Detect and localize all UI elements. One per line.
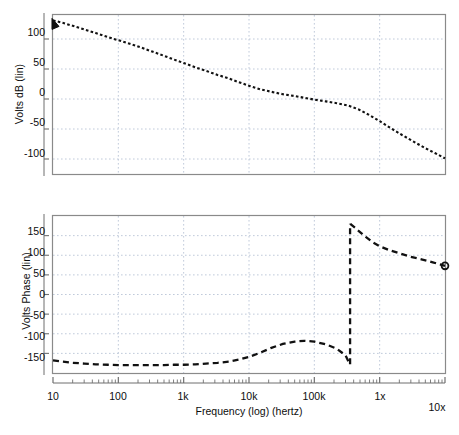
x-tick-label: 10k bbox=[231, 390, 267, 402]
magnitude-ytick-label: 50 bbox=[12, 56, 45, 68]
phase-gridlines bbox=[53, 216, 445, 373]
magnitude-panel: Volts dB (lin) 100 50 0 -50 -100 bbox=[0, 0, 459, 200]
magnitude-ytick-label: -100 bbox=[12, 147, 45, 159]
magnitude-curve bbox=[53, 20, 445, 158]
phase-ytick-label: 0 bbox=[12, 288, 45, 300]
phase-panel: Volts Phase (lin) 150 100 50 0 -50 -100 … bbox=[0, 200, 459, 435]
x-tick-label: 1x bbox=[362, 390, 398, 402]
x-axis-label: Frequency (log) (hertz) bbox=[129, 405, 369, 417]
x-tick-label: 10 bbox=[35, 390, 71, 402]
phase-ytick-label: -100 bbox=[12, 330, 45, 342]
x-tick-label: 1k bbox=[165, 390, 201, 402]
phase-ytick-label: -50 bbox=[12, 309, 45, 321]
magnitude-ytick-label: 0 bbox=[12, 86, 45, 98]
x-tick-label: 100 bbox=[100, 390, 136, 402]
magnitude-gridlines bbox=[53, 15, 445, 174]
x-axis-ruler bbox=[53, 377, 445, 383]
magnitude-ytick-label: -50 bbox=[12, 116, 45, 128]
bode-plot-figure: Volts dB (lin) 100 50 0 -50 -100 Volts P… bbox=[0, 0, 459, 435]
x-tick-label: 10x bbox=[419, 401, 455, 413]
phase-ytick-label: 50 bbox=[12, 267, 45, 279]
phase-ytick-label: 100 bbox=[12, 246, 45, 258]
phase-ytick-label: 150 bbox=[12, 225, 45, 237]
phase-curve-segment bbox=[350, 224, 445, 266]
x-tick-label: 100k bbox=[296, 390, 332, 402]
magnitude-ytick-label: 100 bbox=[12, 26, 45, 38]
magnitude-plot-area bbox=[0, 0, 459, 200]
phase-ytick-label: -150 bbox=[12, 351, 45, 363]
